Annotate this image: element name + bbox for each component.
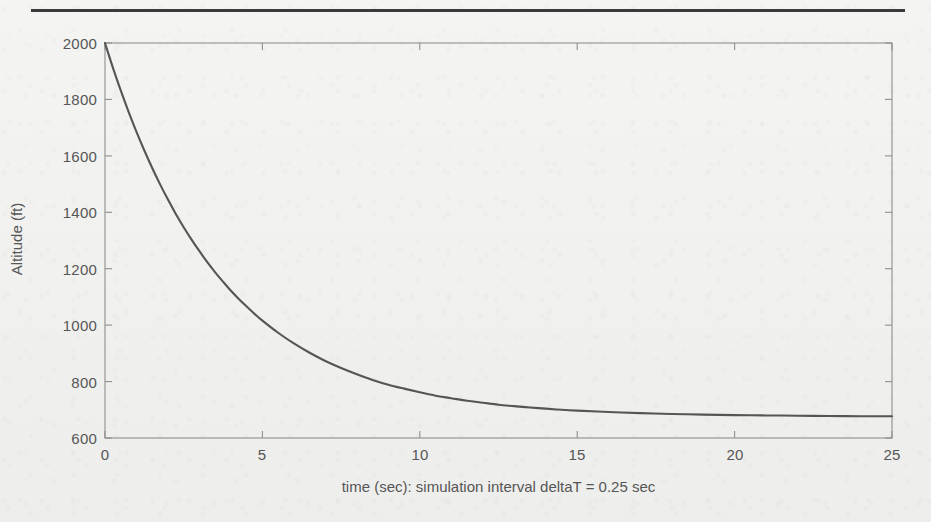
y-axis-ticks — [105, 43, 892, 438]
ytick-label-1400: 1400 — [40, 204, 97, 221]
ytick-label-600: 600 — [40, 430, 97, 447]
xtick-label-5: 5 — [242, 446, 282, 463]
xtick-label-15: 15 — [557, 446, 597, 463]
ytick-label-1200: 1200 — [40, 261, 97, 278]
plot-frame — [105, 43, 892, 438]
figure-page: 2000 1800 1600 1400 1200 1000 800 600 0 … — [0, 0, 931, 522]
y-axis-title: Altitude (ft) — [8, 203, 25, 276]
plot-canvas — [0, 0, 931, 522]
altitude-decay-curve — [105, 43, 892, 416]
x-axis-title: time (sec): simulation interval deltaT =… — [105, 478, 892, 495]
xtick-label-0: 0 — [85, 446, 125, 463]
ytick-label-2000: 2000 — [40, 35, 97, 52]
xtick-label-20: 20 — [715, 446, 755, 463]
ytick-label-1000: 1000 — [40, 317, 97, 334]
ytick-label-800: 800 — [40, 374, 97, 391]
x-axis-ticks — [105, 43, 892, 438]
xtick-label-10: 10 — [400, 446, 440, 463]
ytick-label-1800: 1800 — [40, 91, 97, 108]
chart-figure: 2000 1800 1600 1400 1200 1000 800 600 0 … — [0, 0, 931, 522]
ytick-label-1600: 1600 — [40, 148, 97, 165]
xtick-label-25: 25 — [872, 446, 912, 463]
